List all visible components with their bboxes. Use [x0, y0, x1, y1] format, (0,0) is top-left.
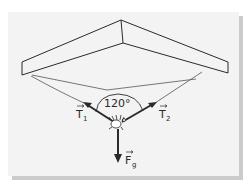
spider-free-body-diagram: 120° T 1 T 2 F g — [0, 0, 250, 188]
svg-text:T: T — [158, 108, 166, 121]
angle-label: 120° — [104, 97, 131, 110]
svg-text:2: 2 — [166, 115, 170, 123]
card-background — [8, 12, 239, 176]
svg-text:F: F — [125, 154, 131, 167]
svg-text:T: T — [75, 108, 83, 121]
svg-text:1: 1 — [83, 115, 87, 123]
svg-text:g: g — [132, 161, 136, 169]
